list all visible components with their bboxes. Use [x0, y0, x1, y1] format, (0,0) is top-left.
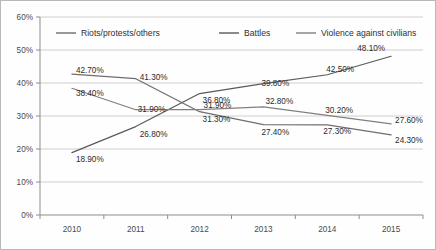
- data-point-label: 42.70%: [76, 66, 104, 75]
- y-axis-tick-label: 0%: [21, 211, 33, 220]
- data-point-label: 38.40%: [76, 89, 104, 98]
- x-axis-tick-label: 2011: [127, 225, 145, 234]
- legend-label-0: Riots/protests/others: [81, 28, 160, 38]
- data-point-label: 30.20%: [325, 106, 353, 115]
- data-point-label: 27.40%: [261, 128, 289, 137]
- data-point-label: 48.10%: [357, 44, 385, 53]
- chart-figure: 0%10%20%30%40%50%60%20102011201220132014…: [0, 0, 436, 250]
- y-axis-tick-label: 40%: [17, 79, 33, 88]
- legend-label-2: Violence against civilians: [321, 28, 416, 38]
- data-point-label: 32.80%: [265, 97, 293, 106]
- data-point-label: 27.30%: [323, 127, 351, 136]
- y-axis-tick-label: 10%: [17, 178, 33, 187]
- y-axis-tick-label: 30%: [17, 112, 33, 121]
- data-point-label: 31.90%: [204, 101, 232, 110]
- y-axis-tick-label: 60%: [17, 13, 33, 22]
- line-chart: 0%10%20%30%40%50%60%20102011201220132014…: [1, 1, 436, 250]
- data-point-label: 41.30%: [140, 73, 168, 82]
- data-point-label: 24.30%: [395, 136, 423, 145]
- legend-label-1: Battles: [244, 28, 270, 38]
- x-axis-tick-label: 2014: [318, 225, 337, 234]
- data-point-label: 31.90%: [138, 105, 166, 114]
- data-point-label: 27.60%: [395, 116, 423, 125]
- x-axis-tick-label: 2015: [382, 225, 401, 234]
- data-point-label: 42.50%: [326, 65, 354, 74]
- data-point-label: 31.30%: [203, 115, 231, 124]
- data-point-label: 39.80%: [261, 79, 289, 88]
- data-point-label: 18.90%: [76, 155, 104, 164]
- x-axis-tick-label: 2010: [63, 225, 82, 234]
- y-axis-tick-label: 50%: [17, 46, 33, 55]
- x-axis-tick-label: 2013: [254, 225, 273, 234]
- y-axis-tick-label: 20%: [17, 145, 33, 154]
- data-point-label: 26.80%: [140, 130, 168, 139]
- x-axis-tick-label: 2012: [190, 225, 209, 234]
